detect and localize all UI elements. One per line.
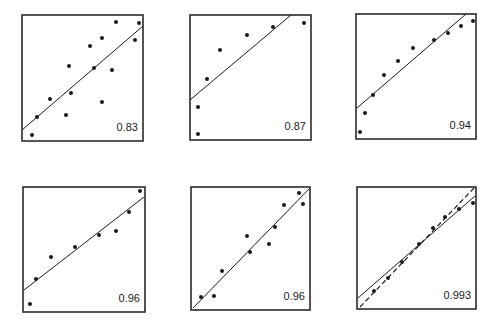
data-point xyxy=(110,68,114,72)
data-point xyxy=(49,255,53,259)
data-point xyxy=(30,133,34,137)
data-point xyxy=(218,48,222,52)
data-point xyxy=(212,294,216,298)
scatter-panel-1: 0.83 xyxy=(22,15,143,141)
correlation-label: 0.87 xyxy=(285,120,306,132)
data-point xyxy=(196,105,200,109)
data-point xyxy=(73,245,77,249)
data-point xyxy=(28,302,32,306)
data-point xyxy=(205,77,209,81)
data-point xyxy=(382,73,386,77)
data-point xyxy=(386,276,390,280)
data-point xyxy=(35,115,39,119)
data-point xyxy=(432,38,436,42)
data-point xyxy=(471,19,475,23)
data-point xyxy=(297,191,301,195)
data-point xyxy=(271,25,275,29)
data-point xyxy=(114,229,118,233)
data-point xyxy=(417,242,421,246)
data-point xyxy=(69,91,73,95)
correlation-label: 0.96 xyxy=(119,292,140,304)
data-point xyxy=(114,20,118,24)
data-point xyxy=(358,130,362,134)
data-point xyxy=(267,242,271,246)
data-point xyxy=(372,289,376,293)
data-point xyxy=(67,64,71,68)
data-point xyxy=(400,260,404,264)
scatter-panel-4: 0.96 xyxy=(23,187,145,312)
data-point xyxy=(220,269,224,273)
data-point xyxy=(97,233,101,237)
data-point xyxy=(282,203,286,207)
data-point xyxy=(196,132,200,136)
scatter-panel-6: 0.993 xyxy=(357,187,476,309)
data-point xyxy=(446,31,450,35)
correlation-label: 0.83 xyxy=(117,121,138,133)
data-point xyxy=(138,189,142,193)
data-point xyxy=(245,33,249,37)
data-point xyxy=(363,111,367,115)
data-point xyxy=(248,250,252,254)
data-point xyxy=(100,100,104,104)
data-point xyxy=(301,202,305,206)
data-point xyxy=(64,113,68,117)
data-point xyxy=(396,59,400,63)
data-point xyxy=(127,210,131,214)
data-point xyxy=(471,201,475,205)
data-point xyxy=(411,46,415,50)
data-point xyxy=(137,21,141,25)
scatter-panel-3: 0.94 xyxy=(356,14,476,139)
data-point xyxy=(371,93,375,97)
data-point xyxy=(100,36,104,40)
data-point xyxy=(443,215,447,219)
data-point xyxy=(88,44,92,48)
data-point xyxy=(34,277,38,281)
data-point xyxy=(302,21,306,25)
data-point xyxy=(48,97,52,101)
data-point xyxy=(133,38,137,42)
data-point xyxy=(245,234,249,238)
data-point xyxy=(457,207,461,211)
data-point xyxy=(199,295,203,299)
data-point xyxy=(459,24,463,28)
scatter-figure: 0.830.870.940.960.960.993 xyxy=(0,0,497,323)
correlation-label: 0.993 xyxy=(443,289,471,301)
scatter-panel-2: 0.87 xyxy=(190,15,311,140)
correlation-label: 0.96 xyxy=(284,290,305,302)
data-point xyxy=(273,225,277,229)
scatter-panel-5: 0.96 xyxy=(191,187,310,310)
correlation-label: 0.94 xyxy=(450,119,471,131)
data-point xyxy=(92,66,96,70)
data-point xyxy=(431,226,435,230)
